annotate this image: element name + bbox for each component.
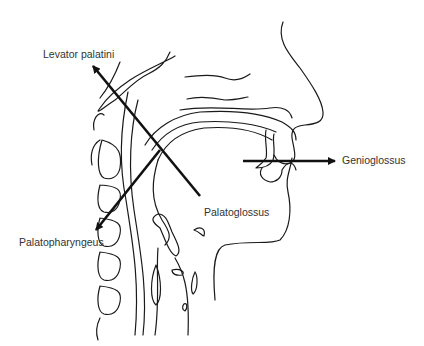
cricoid-cartilage: [192, 272, 198, 294]
larynx-wall: [155, 248, 158, 335]
label-levator-palatini: Levator palatini: [43, 49, 114, 60]
chin-profile: [214, 158, 292, 300]
trachea-oval: [152, 265, 161, 305]
face-profile: [274, 22, 323, 164]
label-palatopharyngeus: Palatopharyngeus: [19, 237, 104, 248]
eustachian-tube: [98, 52, 175, 111]
epiglottis: [153, 214, 179, 256]
small-cartilage: [183, 304, 187, 311]
anatomy-diagram: Levator palatini Genioglossus Palatoglos…: [0, 0, 424, 346]
nasal-turbinate-lower: [187, 97, 248, 100]
hyoid-bone: [194, 228, 204, 236]
label-genioglossus: Genioglossus: [342, 155, 406, 166]
nasal-turbinate-upper: [185, 74, 250, 80]
levator-palatini-arrow: [93, 66, 200, 196]
pharyngeal-wall-inner: [131, 100, 145, 335]
palate-inner-2: [158, 128, 272, 161]
palate-inner: [152, 121, 276, 150]
cervical-spine: [91, 114, 120, 340]
palatopharyngeus-arrow: [96, 150, 160, 230]
label-palatoglossus: Palatoglossus: [204, 207, 269, 218]
